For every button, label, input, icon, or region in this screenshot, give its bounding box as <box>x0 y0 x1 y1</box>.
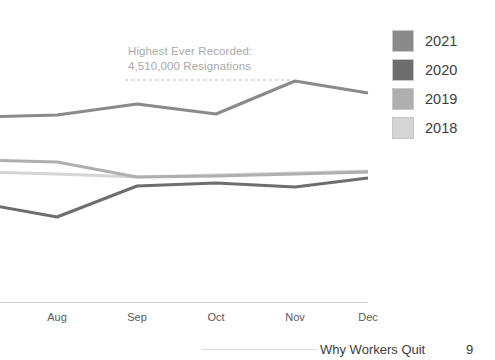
legend-item-2021[interactable]: 2021 <box>392 30 487 52</box>
legend-label-2018: 2018 <box>425 121 457 136</box>
chart-legend: 2021202020192018 <box>392 30 487 146</box>
legend-item-2020[interactable]: 2020 <box>392 59 487 81</box>
series-line-2020 <box>0 178 368 217</box>
x-tick-oct: Oct <box>207 311 224 323</box>
slide-page: Highest Ever Recorded: 4,510,000 Resigna… <box>0 0 495 360</box>
chart-annotation: Highest Ever Recorded: 4,510,000 Resigna… <box>128 44 358 74</box>
legend-item-2019[interactable]: 2019 <box>392 88 487 110</box>
x-tick-nov: Nov <box>285 311 305 323</box>
legend-label-2020: 2020 <box>425 63 457 78</box>
footer-divider <box>202 349 317 350</box>
footer-title: Why Workers Quit <box>320 342 425 357</box>
x-tick-aug: Aug <box>47 311 67 323</box>
x-axis-line <box>0 302 368 303</box>
legend-label-2019: 2019 <box>425 92 457 107</box>
series-lines <box>0 81 368 217</box>
annotation-line-2: 4,510,000 Resignations <box>128 59 358 74</box>
legend-label-2021: 2021 <box>425 34 457 49</box>
footer-page-number: 9 <box>466 342 473 357</box>
legend-swatch-2021 <box>392 30 414 52</box>
annotation-line-1: Highest Ever Recorded: <box>128 44 358 59</box>
legend-item-2018[interactable]: 2018 <box>392 117 487 139</box>
legend-swatch-2018 <box>392 117 414 139</box>
series-line-2021 <box>0 81 368 117</box>
x-tick-sep: Sep <box>127 311 147 323</box>
legend-swatch-2020 <box>392 59 414 81</box>
legend-swatch-2019 <box>392 88 414 110</box>
x-tick-dec: Dec <box>358 311 378 323</box>
